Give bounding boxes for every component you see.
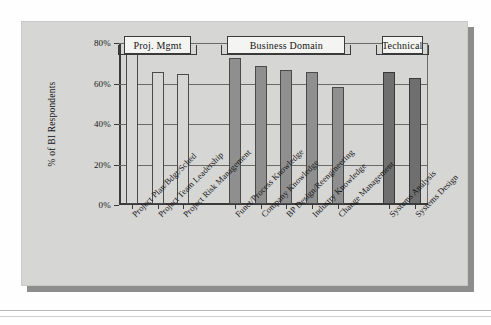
y-tick-mark [114, 165, 119, 166]
gridline [119, 124, 428, 125]
bar-3 [229, 58, 241, 204]
group-header-proj-mgmt: Proj. Mgmt [124, 36, 190, 54]
bar-0 [126, 52, 138, 204]
y-tick-label: 20% [94, 160, 111, 170]
y-tick-label: 40% [94, 119, 111, 129]
group-header-technical: Technical [382, 36, 423, 54]
bar-8 [383, 72, 395, 204]
y-tick-label: 0% [99, 200, 111, 210]
page-canvas: % of BI Respondents 0%20%40%60%80% Proj.… [0, 0, 491, 325]
y-tick-mark [114, 205, 119, 206]
y-tick-label: 80% [94, 38, 111, 48]
group-header-business-domain: Business Domain [227, 36, 345, 54]
y-tick-mark [114, 84, 119, 85]
y-tick-mark [114, 124, 119, 125]
page-rule-top [0, 310, 491, 311]
gridline [119, 84, 428, 85]
page-rule-bottom [0, 316, 491, 317]
y-tick-label: 60% [94, 79, 111, 89]
chart-figure: % of BI Respondents 0%20%40%60%80% Proj.… [21, 21, 468, 286]
y-tick-mark [114, 43, 119, 44]
y-axis-title: % of BI Respondents [47, 82, 57, 167]
